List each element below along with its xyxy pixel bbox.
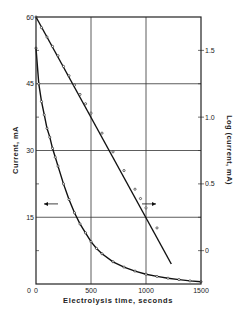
data-point [123, 266, 125, 268]
chart: 05001000150001530456000.51.01.5 Electrol… [0, 0, 239, 319]
data-point [43, 114, 45, 116]
data-point [95, 247, 97, 249]
data-point [46, 36, 48, 38]
x-axis-label: Electrolysis time, seconds [63, 296, 173, 305]
data-point [73, 212, 75, 214]
data-point [145, 273, 147, 275]
data-point [101, 132, 103, 134]
data-point [68, 75, 70, 77]
y-tick-label-left: 60 [26, 14, 34, 21]
data-point [68, 198, 70, 200]
data-point [73, 84, 75, 86]
data-point [62, 183, 64, 185]
x-tick-label: 500 [85, 287, 97, 294]
data-point [62, 65, 64, 67]
log-current-line [36, 17, 171, 264]
data-point [51, 45, 53, 47]
data-point [40, 100, 42, 102]
data-point [134, 188, 136, 190]
data-point [90, 112, 92, 114]
series [35, 16, 202, 283]
current-curve [36, 48, 201, 282]
y-tick-label-right: 0 [205, 247, 209, 254]
data-point [40, 27, 42, 29]
arrow-right-icon [152, 202, 156, 206]
data-point [189, 280, 191, 282]
y-axis-label-right: Log (current, mA) [225, 115, 234, 185]
data-point [84, 232, 86, 234]
y-tick-label-right: 1.5 [205, 47, 215, 54]
data-point [46, 127, 48, 129]
grid [36, 17, 201, 284]
data-point [49, 136, 51, 138]
data-point [134, 270, 136, 272]
data-point [156, 275, 158, 277]
y-tick-label-left: 0 [27, 287, 31, 294]
data-point [90, 241, 92, 243]
data-point [178, 278, 180, 280]
y-tick-label-right: 0.5 [205, 180, 215, 187]
data-point [79, 223, 81, 225]
data-point [38, 83, 40, 85]
data-point [79, 93, 81, 95]
x-tick-label: 0 [34, 287, 38, 294]
y-tick-label-left: 45 [26, 80, 34, 87]
data-point [57, 165, 59, 167]
data-point [156, 227, 158, 229]
y-tick-label-left: 30 [26, 147, 34, 154]
data-point [112, 151, 114, 153]
data-point [51, 147, 53, 149]
y-tick-label-right: 1.0 [205, 114, 215, 121]
data-point [101, 253, 103, 255]
data-point [123, 169, 125, 171]
data-point [84, 103, 86, 105]
data-point [145, 207, 147, 209]
data-point [54, 156, 56, 158]
data-point [167, 277, 169, 279]
x-tick-label: 1000 [138, 287, 154, 294]
data-point [139, 197, 141, 199]
arrow-left-icon [44, 202, 48, 206]
y-axis-label-left: Current, mA [11, 126, 20, 174]
data-point [57, 55, 59, 57]
data-point [112, 261, 114, 263]
y-tick-label-left: 15 [26, 214, 34, 221]
x-tick-label: 1500 [193, 287, 209, 294]
